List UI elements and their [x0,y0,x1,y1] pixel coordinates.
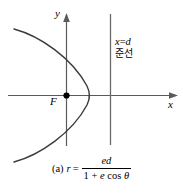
directrix-label-group: x=d 준선 [115,35,133,61]
directrix-equation: x=d [115,35,133,48]
caption-denominator-cos: cos [107,170,121,181]
x-axis-label: x [168,99,173,110]
directrix-korean-label: 준선 [115,48,133,61]
caption-equals-sign: = [73,163,79,174]
caption-fraction: ed 1 + e cos θ [82,155,132,182]
y-axis-arrowhead [63,13,70,22]
caption-index: (a) [52,163,64,174]
caption-denominator: 1 + e cos θ [82,170,132,182]
caption-variable-r: r [67,163,71,174]
conic-section-figure: y x F x=d 준선 (a) r = ed 1 + e cos θ [0,0,183,193]
focus-label: F [50,96,57,107]
y-axis-label: y [55,8,60,19]
directrix-equation-rhs: d [126,36,131,47]
caption-numerator: ed [97,155,115,167]
x-axis [8,92,178,99]
y-axis [63,13,70,146]
figure-caption: (a) r = ed 1 + e cos θ [0,155,183,182]
focus-point [63,92,69,98]
caption-denominator-one: 1 + [84,170,98,181]
caption-fraction-bar [82,168,132,169]
caption-denominator-e: e [100,170,105,181]
caption-denominator-theta: θ [124,170,129,181]
